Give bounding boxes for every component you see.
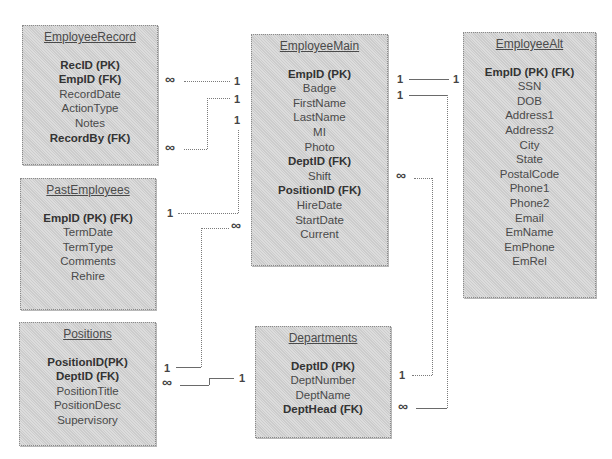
- cardinality-one: 1: [234, 114, 240, 126]
- relationship-line: [184, 149, 207, 150]
- field-recid: RecID (PK): [23, 58, 157, 73]
- field-empid: EmpID (FK): [23, 72, 157, 87]
- field-recordby: RecordBy (FK): [23, 131, 157, 146]
- cardinality-one: 1: [234, 75, 240, 87]
- cardinality-one: 1: [167, 207, 173, 219]
- table-positions[interactable]: Positions PositionID(PK) DeptID (FK) Pos…: [19, 322, 156, 446]
- relationship-line: [409, 79, 449, 80]
- field-notes: Notes: [23, 116, 157, 131]
- relationship-line: [432, 178, 433, 375]
- cardinality-one: 1: [399, 369, 405, 381]
- field-ssn: SSN: [464, 79, 595, 94]
- cardinality-one: 1: [234, 93, 240, 105]
- table-title: PastEmployees: [21, 183, 155, 198]
- table-past-employees[interactable]: PastEmployees EmpID (PK) (FK) TermDate T…: [20, 178, 156, 310]
- relationship-line: [416, 408, 447, 409]
- field-dob: DOB: [464, 94, 595, 109]
- field-depthead: DeptHead (FK): [256, 402, 390, 417]
- cardinality-many: ∞: [231, 219, 241, 231]
- field-mi: MI: [252, 125, 387, 140]
- relationship-line: [238, 130, 239, 213]
- cardinality-one: 1: [164, 362, 170, 374]
- field-deptid: DeptID (FK): [252, 154, 387, 169]
- field-emrel: EmRel: [464, 254, 595, 269]
- field-lastname: LastName: [252, 110, 387, 125]
- field-startdate: StartDate: [252, 213, 387, 228]
- field-current: Current: [252, 227, 387, 242]
- field-phone2: Phone2: [464, 196, 595, 211]
- field-email: Email: [464, 211, 595, 226]
- relationship-line: [447, 95, 448, 408]
- field-deptid: DeptID (PK): [256, 359, 390, 374]
- field-hiredate: HireDate: [252, 198, 387, 213]
- field-positionid: PositionID(PK): [20, 355, 155, 370]
- field-positiontitle: PositionTitle: [20, 384, 155, 399]
- relationship-line: [201, 228, 229, 229]
- relationship-line: [201, 228, 202, 367]
- cardinality-many: ∞: [396, 169, 406, 181]
- field-emname: EmName: [464, 225, 595, 240]
- field-deptnumber: DeptNumber: [256, 373, 390, 388]
- relationship-line: [209, 378, 210, 385]
- field-comments: Comments: [21, 254, 155, 269]
- relationship-line: [207, 98, 230, 99]
- field-address2: Address2: [464, 123, 595, 138]
- table-title: EmployeeRecord: [23, 30, 157, 45]
- field-empid: EmpID (PK) (FK): [464, 65, 595, 80]
- cardinality-one: 1: [397, 89, 403, 101]
- relationship-line: [207, 98, 208, 149]
- cardinality-many: ∞: [165, 141, 175, 153]
- field-photo: Photo: [252, 140, 387, 155]
- relationship-line: [180, 385, 209, 386]
- table-employee-record[interactable]: EmployeeRecord RecID (PK) EmpID (FK) Rec…: [22, 25, 158, 165]
- cardinality-one: 1: [397, 73, 403, 85]
- field-supervisory: Supervisory: [20, 413, 155, 428]
- cardinality-many: ∞: [162, 376, 172, 388]
- field-emphone: EmPhone: [464, 240, 595, 255]
- field-badge: Badge: [252, 81, 387, 96]
- table-title: Departments: [256, 331, 390, 346]
- relationship-line: [412, 375, 432, 376]
- relationship-line: [184, 81, 230, 82]
- field-termtype: TermType: [21, 240, 155, 255]
- table-title: EmployeeAlt: [464, 37, 595, 52]
- field-deptname: DeptName: [256, 388, 390, 403]
- cardinality-one: 1: [453, 73, 459, 85]
- cardinality-one: 1: [239, 372, 245, 384]
- field-address1: Address1: [464, 108, 595, 123]
- field-actiontype: ActionType: [23, 101, 157, 116]
- relationship-line: [178, 213, 238, 214]
- field-recorddate: RecordDate: [23, 87, 157, 102]
- field-firstname: FirstName: [252, 96, 387, 111]
- table-employee-alt[interactable]: EmployeeAlt EmpID (PK) (FK) SSN DOB Addr…: [463, 32, 596, 298]
- cardinality-many: ∞: [165, 73, 175, 85]
- field-state: State: [464, 152, 595, 167]
- field-postalcode: PostalCode: [464, 167, 595, 182]
- field-deptid: DeptID (FK): [20, 369, 155, 384]
- field-rehire: Rehire: [21, 269, 155, 284]
- relationship-line: [209, 378, 234, 379]
- field-empid: EmpID (PK): [252, 67, 387, 82]
- table-employee-main[interactable]: EmployeeMain EmpID (PK) Badge FirstName …: [251, 34, 388, 266]
- field-city: City: [464, 138, 595, 153]
- cardinality-many: ∞: [398, 400, 408, 412]
- field-phone1: Phone1: [464, 181, 595, 196]
- table-title: EmployeeMain: [252, 39, 387, 54]
- table-departments[interactable]: Departments DeptID (PK) DeptNumber DeptN…: [255, 326, 391, 438]
- field-positionid: PositionID (FK): [252, 183, 387, 198]
- field-empid: EmpID (PK) (FK): [21, 211, 155, 226]
- table-title: Positions: [20, 327, 155, 342]
- field-positiondesc: PositionDesc: [20, 398, 155, 413]
- field-termdate: TermDate: [21, 225, 155, 240]
- relationship-line: [176, 367, 201, 368]
- relationship-line: [409, 95, 447, 96]
- relationship-line: [414, 178, 432, 179]
- field-shift: Shift: [252, 169, 387, 184]
